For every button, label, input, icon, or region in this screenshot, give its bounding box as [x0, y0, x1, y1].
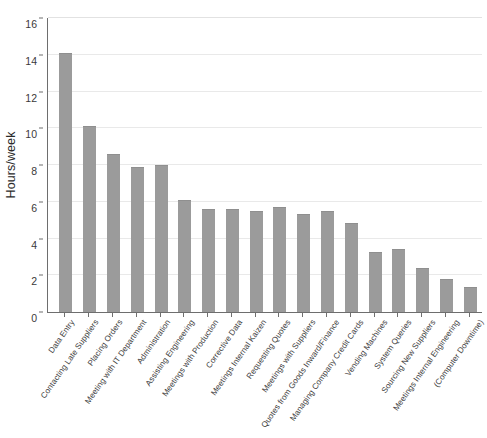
bar-slot: [149, 18, 173, 312]
bar-series: [48, 18, 482, 312]
y-axis-tick-mark: [39, 275, 43, 276]
x-axis-tick-mark: [136, 313, 137, 317]
y-axis-tick-mark: [39, 54, 43, 55]
bar[interactable]: [83, 126, 96, 312]
x-axis-tick-mark: [231, 313, 232, 317]
bar[interactable]: [155, 165, 168, 312]
x-axis-tick-mark: [445, 313, 446, 317]
bar-slot: [54, 18, 78, 312]
bar-slot: [292, 18, 316, 312]
x-axis-tick-mark: [278, 313, 279, 317]
bar-slot: [363, 18, 387, 312]
bar[interactable]: [107, 154, 120, 312]
bar-slot: [339, 18, 363, 312]
bar[interactable]: [250, 211, 263, 312]
bar-slot: [435, 18, 459, 312]
x-axis-tick-mark: [397, 313, 398, 317]
y-axis-tick-mark: [39, 238, 43, 239]
bar-slot: [197, 18, 221, 312]
bar[interactable]: [369, 252, 382, 312]
x-axis-tick-mark: [469, 313, 470, 317]
bar[interactable]: [178, 200, 191, 312]
bar-slot: [387, 18, 411, 312]
bar-chart: Hours/week 0246810121416 Data EntryConta…: [0, 0, 487, 438]
y-axis-tick-mark: [39, 201, 43, 202]
bar-slot: [102, 18, 126, 312]
x-axis-tick-mark: [64, 313, 65, 317]
x-axis-tick-mark: [207, 313, 208, 317]
bar[interactable]: [131, 167, 144, 312]
bar[interactable]: [321, 211, 334, 312]
x-axis-tick-mark: [350, 313, 351, 317]
y-axis-tick-mark: [39, 18, 43, 19]
bar-slot: [268, 18, 292, 312]
bar-slot: [78, 18, 102, 312]
bar-slot: [173, 18, 197, 312]
x-axis-tick-label: Requesting Quotes: [245, 318, 293, 381]
x-axis-tick-mark: [326, 313, 327, 317]
plot-area: [47, 18, 482, 313]
y-axis-tick-mark: [39, 128, 43, 129]
bar-slot: [125, 18, 149, 312]
x-axis-tick-mark: [255, 313, 256, 317]
x-axis-tick-mark: [302, 313, 303, 317]
x-axis-tick-mark: [183, 313, 184, 317]
bar-slot: [220, 18, 244, 312]
bar[interactable]: [416, 268, 429, 312]
x-axis-tick-mark: [88, 313, 89, 317]
bar[interactable]: [464, 287, 477, 312]
bar[interactable]: [440, 279, 453, 312]
x-axis-tick-mark: [160, 313, 161, 317]
bar[interactable]: [59, 53, 72, 312]
bar[interactable]: [392, 249, 405, 312]
y-axis-tick-labels: 0246810121416: [0, 18, 43, 312]
x-axis-tick-mark: [374, 313, 375, 317]
y-axis-tick-mark: [39, 91, 43, 92]
bar-slot: [458, 18, 482, 312]
bar[interactable]: [273, 207, 286, 312]
bar-slot: [244, 18, 268, 312]
x-axis-tick-mark: [112, 313, 113, 317]
y-axis-tick-mark: [39, 312, 43, 313]
bar-slot: [316, 18, 340, 312]
x-axis-tick-mark: [421, 313, 422, 317]
bar-slot: [411, 18, 435, 312]
bar[interactable]: [345, 223, 358, 312]
bar[interactable]: [202, 209, 215, 312]
bar[interactable]: [226, 209, 239, 312]
y-axis-tick-mark: [39, 165, 43, 166]
x-axis-tick-labels: Data EntryContacting Late SuppliersPlaci…: [47, 318, 487, 438]
bar[interactable]: [297, 214, 310, 312]
